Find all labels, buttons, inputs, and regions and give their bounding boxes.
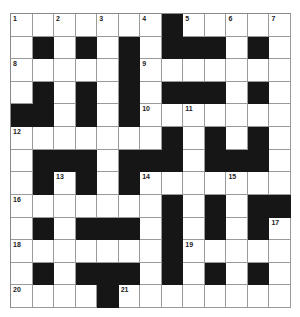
crossword-cell[interactable]: 8 xyxy=(11,59,33,82)
crossword-cell[interactable]: 12 xyxy=(11,127,33,150)
crossword-cell[interactable] xyxy=(269,172,291,195)
crossword-cell[interactable] xyxy=(269,150,291,173)
crossword-cell[interactable] xyxy=(248,285,270,308)
crossword-cell[interactable] xyxy=(54,59,76,82)
crossword-cell[interactable]: 21 xyxy=(119,285,141,308)
crossword-cell[interactable] xyxy=(226,82,248,105)
crossword-cell[interactable] xyxy=(226,240,248,263)
crossword-cell[interactable] xyxy=(33,240,55,263)
crossword-cell[interactable] xyxy=(183,195,205,218)
crossword-cell[interactable] xyxy=(54,240,76,263)
crossword-cell[interactable] xyxy=(97,127,119,150)
crossword-cell[interactable] xyxy=(54,104,76,127)
crossword-cell[interactable] xyxy=(226,37,248,60)
crossword-cell[interactable] xyxy=(54,195,76,218)
crossword-cell[interactable] xyxy=(183,150,205,173)
crossword-cell[interactable] xyxy=(54,127,76,150)
crossword-cell[interactable] xyxy=(205,104,227,127)
crossword-cell[interactable] xyxy=(205,14,227,37)
crossword-cell[interactable]: 2 xyxy=(54,14,76,37)
crossword-cell[interactable] xyxy=(76,240,98,263)
crossword-cell[interactable] xyxy=(119,240,141,263)
crossword-cell[interactable] xyxy=(33,59,55,82)
crossword-cell[interactable] xyxy=(140,263,162,286)
crossword-cell[interactable]: 19 xyxy=(183,240,205,263)
crossword-cell[interactable] xyxy=(205,172,227,195)
crossword-cell[interactable] xyxy=(269,104,291,127)
crossword-cell[interactable] xyxy=(140,285,162,308)
crossword-cell[interactable] xyxy=(97,150,119,173)
crossword-cell[interactable] xyxy=(183,285,205,308)
crossword-cell[interactable] xyxy=(97,59,119,82)
crossword-cell[interactable] xyxy=(97,195,119,218)
crossword-cell[interactable] xyxy=(183,263,205,286)
crossword-cell[interactable] xyxy=(119,127,141,150)
crossword-cell[interactable] xyxy=(76,14,98,37)
crossword-cell[interactable]: 20 xyxy=(11,285,33,308)
crossword-cell[interactable]: 1 xyxy=(11,14,33,37)
crossword-cell[interactable]: 14 xyxy=(140,172,162,195)
crossword-cell[interactable] xyxy=(269,37,291,60)
crossword-cell[interactable] xyxy=(269,263,291,286)
crossword-cell[interactable] xyxy=(76,127,98,150)
crossword-cell[interactable] xyxy=(226,59,248,82)
crossword-cell[interactable] xyxy=(205,285,227,308)
crossword-cell[interactable]: 6 xyxy=(226,14,248,37)
crossword-cell[interactable] xyxy=(248,240,270,263)
crossword-cell[interactable] xyxy=(11,218,33,241)
crossword-cell[interactable] xyxy=(226,104,248,127)
crossword-cell[interactable] xyxy=(54,263,76,286)
crossword-cell[interactable] xyxy=(97,172,119,195)
crossword-cell[interactable] xyxy=(248,172,270,195)
crossword-cell[interactable] xyxy=(11,172,33,195)
crossword-cell[interactable] xyxy=(140,37,162,60)
crossword-cell[interactable]: 5 xyxy=(183,14,205,37)
crossword-cell[interactable] xyxy=(226,263,248,286)
crossword-cell[interactable] xyxy=(162,285,184,308)
crossword-cell[interactable] xyxy=(269,285,291,308)
crossword-cell[interactable]: 18 xyxy=(11,240,33,263)
crossword-cell[interactable] xyxy=(162,104,184,127)
crossword-cell[interactable] xyxy=(269,127,291,150)
crossword-cell[interactable] xyxy=(248,59,270,82)
crossword-cell[interactable] xyxy=(76,59,98,82)
crossword-cell[interactable] xyxy=(11,263,33,286)
crossword-cell[interactable] xyxy=(248,14,270,37)
crossword-cell[interactable]: 3 xyxy=(97,14,119,37)
crossword-cell[interactable] xyxy=(183,127,205,150)
crossword-cell[interactable] xyxy=(162,59,184,82)
crossword-cell[interactable] xyxy=(226,285,248,308)
crossword-cell[interactable] xyxy=(33,285,55,308)
crossword-cell[interactable]: 4 xyxy=(140,14,162,37)
crossword-cell[interactable]: 17 xyxy=(269,218,291,241)
crossword-cell[interactable]: 15 xyxy=(226,172,248,195)
crossword-cell[interactable] xyxy=(140,240,162,263)
crossword-cell[interactable] xyxy=(76,285,98,308)
crossword-cell[interactable] xyxy=(33,127,55,150)
crossword-cell[interactable] xyxy=(140,218,162,241)
crossword-cell[interactable] xyxy=(119,195,141,218)
crossword-cell[interactable] xyxy=(11,82,33,105)
crossword-cell[interactable] xyxy=(76,195,98,218)
crossword-cell[interactable] xyxy=(183,172,205,195)
crossword-cell[interactable] xyxy=(205,240,227,263)
crossword-cell[interactable] xyxy=(11,37,33,60)
crossword-cell[interactable] xyxy=(248,104,270,127)
crossword-cell[interactable] xyxy=(54,285,76,308)
crossword-cell[interactable] xyxy=(205,59,227,82)
crossword-cell[interactable] xyxy=(33,14,55,37)
crossword-cell[interactable] xyxy=(140,195,162,218)
crossword-cell[interactable]: 7 xyxy=(269,14,291,37)
crossword-cell[interactable] xyxy=(269,59,291,82)
crossword-cell[interactable] xyxy=(162,172,184,195)
crossword-cell[interactable] xyxy=(119,14,141,37)
crossword-cell[interactable] xyxy=(97,104,119,127)
crossword-cell[interactable]: 13 xyxy=(54,172,76,195)
crossword-cell[interactable]: 9 xyxy=(140,59,162,82)
crossword-cell[interactable] xyxy=(269,240,291,263)
crossword-cell[interactable] xyxy=(54,37,76,60)
crossword-cell[interactable] xyxy=(140,127,162,150)
crossword-cell[interactable]: 11 xyxy=(183,104,205,127)
crossword-cell[interactable] xyxy=(226,195,248,218)
crossword-cell[interactable] xyxy=(97,82,119,105)
